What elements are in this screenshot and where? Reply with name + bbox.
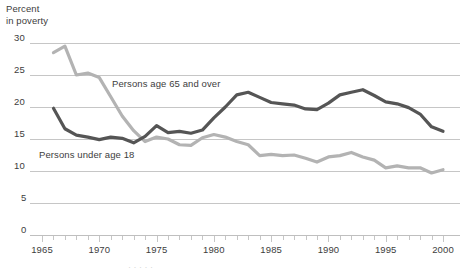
- x-axis-ticks-group: [43, 236, 444, 242]
- x-axis-tick-label: 1975: [146, 244, 168, 255]
- x-axis-tick-label: 1995: [375, 244, 397, 255]
- y-axis-tick-label: 15: [14, 128, 25, 139]
- y-axis-tick-label: 20: [14, 96, 25, 107]
- series-label-children: Persons under age 18: [39, 149, 134, 160]
- y-axis-tick-label: 10: [14, 160, 25, 171]
- x-axis-tick-label: 1970: [89, 244, 111, 255]
- y-axis-tick-label: 0: [21, 224, 26, 235]
- poverty-rate-line-chart: Percentin poverty 051015202530 196519701…: [0, 0, 468, 271]
- x-axis-tick-label: 2000: [432, 244, 454, 255]
- y-axis-tick-label: 5: [21, 192, 26, 203]
- plot-area: [0, 0, 468, 271]
- y-axis-tick-label: 25: [14, 64, 25, 75]
- x-axis-tick-label: 1980: [203, 244, 225, 255]
- series-label-elderly: Persons age 65 and over: [112, 78, 220, 89]
- x-axis-tick-label: 1965: [31, 244, 53, 255]
- x-axis-tick-label: 1990: [318, 244, 340, 255]
- cropped-caption-sliver: · · · · ·: [128, 262, 358, 271]
- y-axis-tick-label: 30: [14, 32, 25, 43]
- x-axis-tick-label: 1985: [260, 244, 282, 255]
